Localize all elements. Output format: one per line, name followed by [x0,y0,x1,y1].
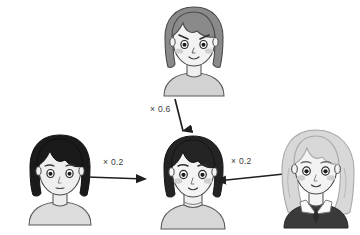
top-pupil-right [202,43,206,47]
arrow-left-to-center [86,170,156,186]
arrow-line-top [175,99,183,131]
right-blush-right [327,175,335,181]
center-pupil-left [181,173,185,177]
left-ear-left [36,167,41,175]
top-blush-right [205,48,213,53]
left-pupil-right [68,172,72,176]
weight-label-top: × 0.6 [150,104,171,114]
weight-label-left: × 0.2 [103,157,124,167]
center-blush-left [174,178,182,184]
right-pupil-left [304,169,308,173]
center-ear-left [169,168,174,176]
figure-top-source [152,4,236,96]
weight-label-right: × 0.2 [231,156,252,166]
center-blush-right [204,178,212,184]
diagram-canvas: × 0.6 [0,0,360,235]
right-ear-right [335,165,341,174]
right-ear-left [292,165,298,174]
top-ear-right [213,38,218,46]
left-pupil-left [49,172,53,176]
top-pupil-left [183,43,187,47]
left-ear-right [79,167,84,175]
top-blush-left [175,48,183,53]
right-blush-left [297,175,305,181]
arrow-line-left [87,177,145,179]
left-mouth [56,188,64,189]
top-ear-left [170,38,175,46]
right-pupil-right [323,169,327,173]
figure-right-source [272,128,360,228]
center-pupil-right [200,173,204,177]
